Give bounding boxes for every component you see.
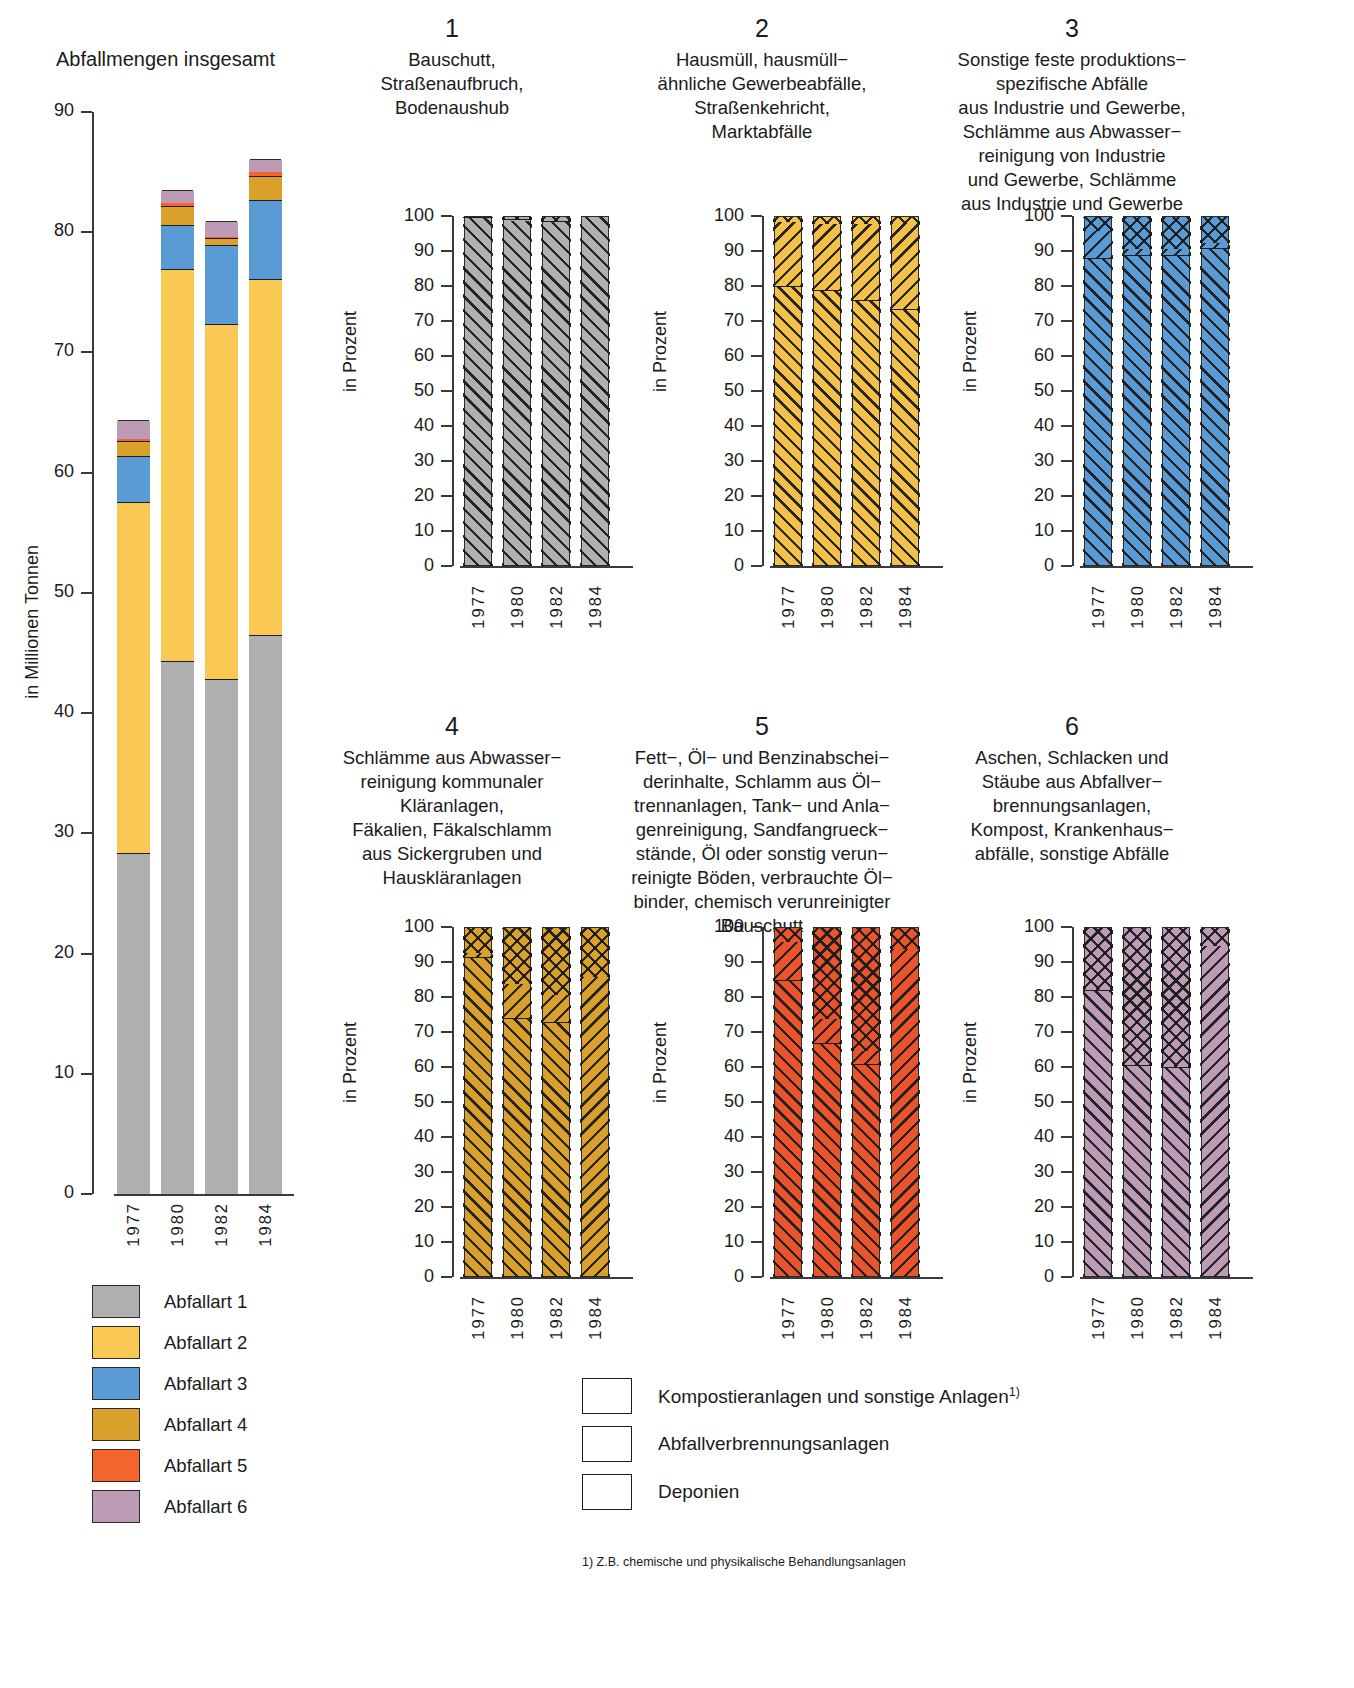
y-tick-mark xyxy=(751,215,762,217)
x-tick-label: 1982 xyxy=(547,584,566,629)
stack-segment xyxy=(580,977,609,1278)
y-tick-mark xyxy=(751,926,762,928)
panel-title-line: aus Industrie und Gewerbe xyxy=(884,192,1260,216)
y-tick-label: 80 xyxy=(682,276,744,294)
y-tick-label: 0 xyxy=(682,556,744,574)
stack-segment xyxy=(541,995,570,1023)
x-tick-label: 1984 xyxy=(896,1295,915,1340)
stack-segment xyxy=(1083,989,1112,991)
stack-segment xyxy=(890,928,919,949)
y-tick-mark xyxy=(1061,390,1072,392)
x-tick-label: 1980 xyxy=(508,1295,527,1340)
x-tick-label: 1977 xyxy=(469,584,488,629)
y-tick-mark xyxy=(441,1171,452,1173)
x-tick-label: 1980 xyxy=(1128,1295,1147,1340)
y-tick-label: 60 xyxy=(682,346,744,364)
x-tick-label: 1977 xyxy=(469,1295,488,1340)
panel-y-axis-label: in Prozent xyxy=(340,1022,361,1103)
y-tick-label: 100 xyxy=(372,206,434,224)
legend-item-label: Abfallart 5 xyxy=(164,1455,247,1477)
x-tick-label: 1977 xyxy=(1089,1295,1108,1340)
stack-segment xyxy=(812,217,841,224)
y-tick-label: 100 xyxy=(992,206,1054,224)
percent-stacked-bar xyxy=(1123,216,1151,566)
y-tick-label: 70 xyxy=(682,1022,744,1040)
y-tick-mark xyxy=(751,961,762,963)
x-tick-label: 1980 xyxy=(1128,584,1147,629)
y-tick-label: 80 xyxy=(372,987,434,1005)
y-tick-mark xyxy=(441,1136,452,1138)
x-tick-label: 1984 xyxy=(586,1295,605,1340)
y-tick-label: 20 xyxy=(682,486,744,504)
panel-title-line: Aschen, Schlacken und xyxy=(884,746,1260,770)
y-tick-label: 70 xyxy=(372,311,434,329)
percent-stacked-bar xyxy=(1162,216,1190,566)
footnote: 1) Z.B. chemische und physikalische Beha… xyxy=(582,1555,906,1569)
panel-y-axis-label: in Prozent xyxy=(650,1022,671,1103)
panel-plot: 10090807060504030201001977198019821984 xyxy=(1072,927,1247,1277)
y-tick-mark xyxy=(751,1136,762,1138)
y-tick-mark xyxy=(1061,460,1072,462)
footnote-marker: 1) xyxy=(1009,1385,1020,1399)
hatch-pattern-swatch xyxy=(582,1474,632,1510)
y-tick-label: 50 xyxy=(372,1092,434,1110)
panel-title-line: abfälle, sonstige Abfälle xyxy=(884,842,1260,866)
stack-segment xyxy=(1122,249,1151,256)
y-tick-mark xyxy=(1061,425,1072,427)
percent-stacked-bar xyxy=(891,927,919,1277)
stack-segment xyxy=(851,301,880,567)
percent-stacked-bar xyxy=(503,927,531,1277)
stack-segment xyxy=(1161,249,1190,256)
stack-segment xyxy=(502,221,531,568)
percent-stacked-bar xyxy=(774,927,802,1277)
stack-segment xyxy=(890,224,919,310)
y-tick-label: 80 xyxy=(372,276,434,294)
stack-segment xyxy=(812,1044,841,1279)
panel-x-axis-line xyxy=(1080,566,1253,568)
hatch-legend-label: Kompostieranlagen und sonstige Anlagen1) xyxy=(658,1385,1020,1408)
y-tick-mark xyxy=(751,425,762,427)
y-tick-label: 70 xyxy=(992,311,1054,329)
y-tick-label: 90 xyxy=(682,952,744,970)
stack-segment xyxy=(502,219,531,220)
stack-segment xyxy=(1083,991,1112,1278)
stack-segment xyxy=(463,218,492,567)
y-tick-label: 0 xyxy=(682,1267,744,1285)
percent-stacked-bar xyxy=(464,216,492,566)
percent-panels: 1Bauschutt,Straßenaufbruch,Bodenaushubin… xyxy=(0,0,1354,1300)
panel-title-line: Sonstige feste produktions− xyxy=(884,48,1260,72)
y-tick-label: 90 xyxy=(372,952,434,970)
stack-segment xyxy=(1122,1066,1151,1278)
percent-stacked-bar xyxy=(1201,927,1229,1277)
x-tick-label: 1980 xyxy=(508,584,527,629)
y-tick-label: 20 xyxy=(372,486,434,504)
panel-y-axis-line xyxy=(762,216,764,566)
y-tick-mark xyxy=(441,1101,452,1103)
stack-segment xyxy=(773,287,802,567)
y-tick-label: 100 xyxy=(992,917,1054,935)
y-tick-mark xyxy=(1061,1276,1072,1278)
stack-segment xyxy=(1083,259,1112,567)
y-tick-mark xyxy=(1061,1206,1072,1208)
stack-segment xyxy=(580,217,609,567)
stack-segment xyxy=(541,928,570,995)
y-tick-label: 100 xyxy=(682,917,744,935)
percent-stacked-bar xyxy=(464,927,492,1277)
x-tick-label: 1984 xyxy=(1206,584,1225,629)
stack-segment xyxy=(1200,243,1229,248)
y-tick-label: 10 xyxy=(372,1232,434,1250)
panel-title-line: Stäube aus Abfallver− xyxy=(884,770,1260,794)
stack-segment xyxy=(463,953,492,958)
y-tick-mark xyxy=(441,495,452,497)
panel-plot: 10090807060504030201001977198019821984 xyxy=(452,927,627,1277)
y-tick-mark xyxy=(441,355,452,357)
y-tick-mark xyxy=(751,320,762,322)
stack-segment xyxy=(502,217,531,219)
legend-item-label: Abfallart 3 xyxy=(164,1373,247,1395)
y-tick-mark xyxy=(1061,215,1072,217)
y-tick-mark xyxy=(751,355,762,357)
y-tick-mark xyxy=(441,460,452,462)
percent-stacked-bar xyxy=(813,927,841,1277)
y-tick-label: 60 xyxy=(372,1057,434,1075)
y-tick-label: 20 xyxy=(372,1197,434,1215)
